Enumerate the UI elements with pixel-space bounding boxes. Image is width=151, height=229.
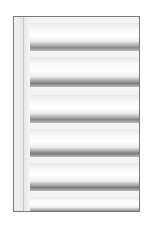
roller-2 (14, 57, 139, 87)
roller-5 (14, 163, 139, 191)
roller-1 (14, 23, 139, 51)
roller-3 (14, 95, 139, 123)
roller-4 (14, 129, 139, 157)
roller-left-edge (14, 17, 30, 211)
photo-frame (13, 16, 140, 212)
roller-6 (14, 197, 139, 212)
